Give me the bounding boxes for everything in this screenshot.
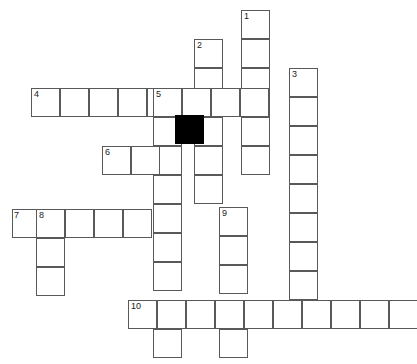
crossword-cell[interactable] xyxy=(94,209,123,238)
crossword-grid: 12345678910 xyxy=(0,0,417,364)
crossword-cell[interactable] xyxy=(31,88,60,117)
crossword-cell[interactable] xyxy=(153,262,182,291)
crossword-cell[interactable] xyxy=(289,155,318,184)
crossword-cell[interactable] xyxy=(241,39,270,68)
crossword-cell[interactable] xyxy=(131,146,160,175)
crossword-cell[interactable] xyxy=(153,175,182,204)
crossword-cell[interactable] xyxy=(153,88,182,117)
crossword-cell[interactable] xyxy=(273,300,302,329)
crossword-cell[interactable] xyxy=(211,88,240,117)
crossword-cell[interactable] xyxy=(153,204,182,233)
crossword-cell[interactable] xyxy=(219,236,248,265)
crossword-cell[interactable] xyxy=(289,271,318,300)
crossword-cell[interactable] xyxy=(186,300,215,329)
crossword-cell[interactable] xyxy=(102,146,131,175)
crossword-cell[interactable] xyxy=(331,300,360,329)
crossword-cell[interactable] xyxy=(289,97,318,126)
crossword-cell[interactable] xyxy=(153,329,182,358)
crossword-cell[interactable] xyxy=(360,300,389,329)
crossword-cell[interactable] xyxy=(241,146,270,175)
crossword-cell[interactable] xyxy=(194,146,223,175)
crossword-cell[interactable] xyxy=(65,209,94,238)
crossword-cell[interactable] xyxy=(182,88,211,117)
crossword-cell[interactable] xyxy=(157,300,186,329)
crossword-cell[interactable] xyxy=(89,88,118,117)
crossword-cell[interactable] xyxy=(289,126,318,155)
crossword-cell[interactable] xyxy=(289,213,318,242)
crossword-cell[interactable] xyxy=(219,207,248,236)
crossword-cell[interactable] xyxy=(36,267,65,296)
crossword-cell[interactable] xyxy=(241,10,270,39)
crossword-cell[interactable] xyxy=(389,300,417,329)
crossword-cell[interactable] xyxy=(302,300,331,329)
crossword-blocked-cell xyxy=(175,115,204,144)
crossword-cell[interactable] xyxy=(118,88,147,117)
crossword-cell[interactable] xyxy=(194,39,223,68)
crossword-cell[interactable] xyxy=(123,209,152,238)
crossword-cell[interactable] xyxy=(60,88,89,117)
crossword-cell[interactable] xyxy=(128,300,157,329)
crossword-cell[interactable] xyxy=(194,175,223,204)
crossword-cell[interactable] xyxy=(289,242,318,271)
crossword-cell[interactable] xyxy=(36,209,65,238)
crossword-cell[interactable] xyxy=(219,265,248,294)
crossword-cell[interactable] xyxy=(36,238,65,267)
crossword-cell[interactable] xyxy=(289,184,318,213)
crossword-cell[interactable] xyxy=(241,117,270,146)
crossword-cell[interactable] xyxy=(153,233,182,262)
crossword-cell[interactable] xyxy=(215,300,244,329)
crossword-cell[interactable] xyxy=(219,329,248,358)
crossword-cell[interactable] xyxy=(240,88,269,117)
crossword-cell[interactable] xyxy=(244,300,273,329)
crossword-cell[interactable] xyxy=(289,68,318,97)
